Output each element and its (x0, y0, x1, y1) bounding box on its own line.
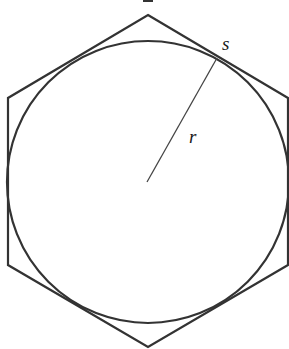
side-label-s: s (222, 33, 229, 54)
cropped-text-fragment (143, 0, 153, 2)
background (0, 0, 289, 349)
hexagon-incircle-diagram: s r (0, 0, 289, 349)
radius-label-r: r (189, 126, 197, 147)
